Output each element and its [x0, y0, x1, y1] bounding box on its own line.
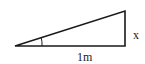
- right-triangle: [15, 11, 125, 46]
- base-length-label: 1m: [77, 51, 92, 63]
- triangle-diagram: x 1m: [0, 0, 145, 64]
- vertical-side-label: x: [133, 29, 139, 41]
- triangle-figure: [0, 0, 145, 64]
- angle-arc-icon: [41, 38, 42, 47]
